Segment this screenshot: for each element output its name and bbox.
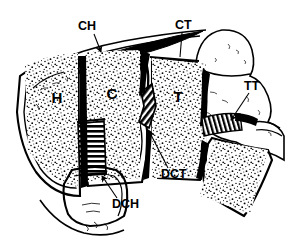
callout-label-ct: CT [175, 18, 192, 32]
region-label-h: H [52, 89, 63, 106]
callout-label-tt: TT [244, 79, 260, 93]
callout-label-ch: CH [78, 19, 96, 33]
leader-ch [94, 34, 101, 52]
segment-lower-right [198, 134, 278, 220]
region-label-t: T [173, 88, 182, 105]
figure-root: H C T [0, 0, 285, 250]
region-label-c: C [107, 85, 118, 102]
callout-label-dct: DCT [161, 167, 187, 181]
anatomical-diagram: H C T [0, 0, 285, 250]
callout-label-dch: DCH [112, 197, 139, 211]
